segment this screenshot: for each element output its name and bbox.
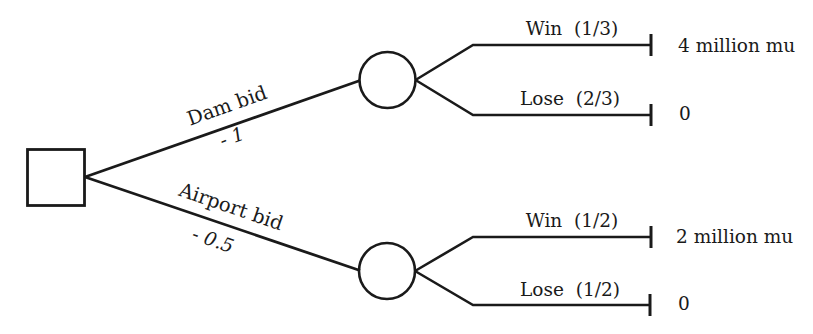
- decision-node-square: [28, 150, 85, 206]
- outcome-label-airport-win: Win (1/2): [526, 212, 619, 231]
- chance-node-dam: [360, 52, 416, 108]
- chance-node-airport: [359, 243, 415, 299]
- outcome-label-airport-lose: Lose (1/2): [520, 281, 620, 300]
- payoff-airport-lose: 0: [678, 295, 690, 314]
- payoff-dam-lose: 0: [679, 105, 691, 124]
- outcome-line-dam-win: [416, 45, 652, 80]
- outcome-label-dam-lose: Lose (2/3): [520, 90, 620, 109]
- outcome-label-dam-win: Win (1/3): [526, 20, 619, 39]
- outcome-line-airport-win: [415, 237, 651, 271]
- payoff-airport-win: 2 million mu: [676, 228, 793, 247]
- decision-tree-figure: Dam bid - 1 Airport bid - 0.5 Win (1/3) …: [0, 0, 813, 334]
- payoff-dam-win: 4 million mu: [678, 37, 795, 56]
